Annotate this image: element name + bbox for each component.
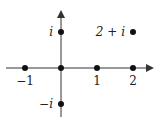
point-two (130, 65, 136, 71)
label-two: 2 (129, 74, 137, 88)
point-two-plus-i (130, 29, 136, 35)
point-origin (58, 65, 64, 71)
label-two-plus-i: 2 + i (95, 25, 125, 39)
complex-plane-diagram: −112i−i2 + i (0, 0, 166, 127)
label-one: 1 (93, 74, 101, 88)
point-minus-one (22, 65, 28, 71)
label-i: i (49, 25, 53, 39)
point-one (94, 65, 100, 71)
label-minus-one: −1 (16, 74, 34, 88)
point-i (58, 29, 64, 35)
point-minus-i (58, 101, 64, 107)
label-minus-i: −i (39, 97, 53, 111)
